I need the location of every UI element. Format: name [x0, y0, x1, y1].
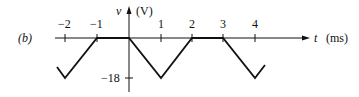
- waveform-diagram: (b) t (ms) v (V) −2 −1 1 2 3 4 −18: [0, 0, 359, 97]
- y-tick-label-neg18: −18: [101, 71, 120, 85]
- t-axis-unit: (ms): [326, 31, 348, 45]
- t-axis-arrow-icon: [302, 36, 310, 41]
- panel-label: (b): [18, 31, 32, 45]
- v-axis-arrow-icon: [127, 6, 132, 14]
- t-axis-var: t: [314, 31, 318, 45]
- tick-label-4: 4: [252, 17, 258, 31]
- v-axis-unit: (V): [136, 4, 153, 18]
- triangle-waveform: [57, 38, 265, 78]
- tick-label-neg2: −2: [58, 17, 71, 31]
- v-axis-var: v: [116, 4, 122, 18]
- tick-label-neg1: −1: [90, 17, 103, 31]
- tick-label-1: 1: [158, 17, 164, 31]
- tick-label-3: 3: [220, 17, 226, 31]
- tick-label-2: 2: [189, 17, 195, 31]
